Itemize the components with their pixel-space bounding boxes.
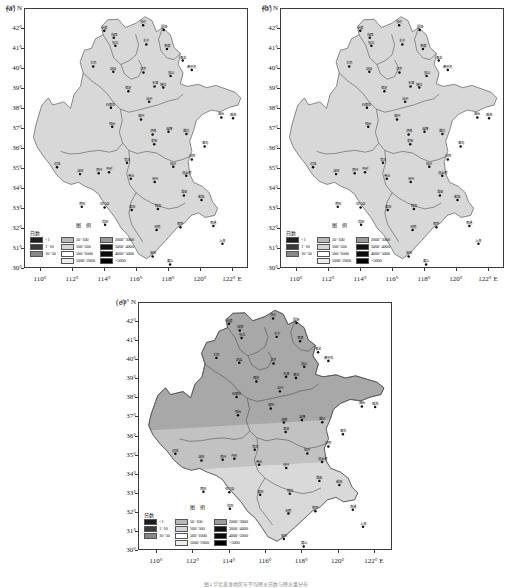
station-label: 保定 <box>381 85 388 90</box>
station-marker <box>383 90 385 92</box>
station-marker <box>398 24 400 26</box>
station-marker <box>447 69 449 71</box>
legend-swatch <box>175 519 188 524</box>
legend-item-days: 10~50 <box>286 251 312 257</box>
station-marker <box>167 130 169 132</box>
station-label: 蚌埠 <box>155 203 162 208</box>
station-label: 连云港 <box>438 170 448 175</box>
station-marker <box>202 490 204 492</box>
station-marker <box>185 133 187 135</box>
legend-item-days: <1 <box>144 519 170 525</box>
station-label: 康保 <box>367 32 374 37</box>
station-label: 石家庄 <box>362 102 372 107</box>
station-label: 信阳 <box>102 219 109 224</box>
station-label: 青龙 <box>315 346 322 351</box>
station-label: 黄山 <box>167 258 173 263</box>
station-label: 济南 <box>281 417 288 422</box>
station-marker <box>317 351 319 353</box>
station-label: 沧州 <box>146 96 152 101</box>
station-label: 南通 <box>466 220 473 225</box>
station-marker <box>441 174 443 176</box>
station-marker <box>279 390 281 392</box>
station-marker <box>418 86 420 88</box>
legend-label: 3000~4000 <box>229 527 248 532</box>
legend-item-amount: 2000~3000 <box>100 237 134 243</box>
station-marker <box>183 194 185 196</box>
station-label: 运城 <box>54 161 61 166</box>
station-label: 保定 <box>125 85 132 90</box>
legend-item-amount: 500~1000 <box>61 251 95 257</box>
panel-a-plot-area: 多伦张北康保化德承德丰宁围场青龙秦皇岛唐山大同蔚县北京天津塘沽保定石家庄沧州邢台… <box>24 8 248 268</box>
station-marker <box>97 172 99 174</box>
station-marker <box>140 118 142 120</box>
station-marker <box>374 406 376 408</box>
legend-label: 1~10 <box>45 245 54 250</box>
station-marker <box>327 360 329 362</box>
x-axis-tick-mark <box>156 550 157 553</box>
legend-swatch <box>30 244 43 249</box>
legend-label: 2000~3000 <box>229 520 248 525</box>
panel-b: (b) 43° N42°41°40°39°38°37°36°35°34°33°3… <box>256 0 512 294</box>
legend-column-amount-low: 50~100100~500500~10001000~2000 <box>175 519 209 546</box>
station-label: 承德 <box>420 43 427 48</box>
station-marker <box>289 493 291 495</box>
legend-swatch <box>100 258 113 263</box>
station-marker <box>81 206 83 208</box>
station-marker <box>386 209 388 211</box>
station-marker <box>253 448 255 450</box>
station-marker <box>174 453 176 455</box>
station-label: 信阳 <box>227 503 234 508</box>
station-marker <box>398 71 400 73</box>
station-marker <box>112 70 114 72</box>
station-label: 盐城 <box>454 194 461 199</box>
x-axis-tick: 112° <box>186 557 199 565</box>
station-label: 阜阳 <box>385 204 392 209</box>
station-marker <box>283 421 285 423</box>
legend-item-days: <1 <box>286 237 312 243</box>
station-marker <box>348 65 350 67</box>
x-axis-tick-mark <box>104 268 105 271</box>
x-axis-tick: 114° <box>222 557 235 565</box>
legend-label: 10~50 <box>45 252 56 257</box>
x-axis-tick: 112° <box>321 275 334 283</box>
x-axis-tick: 110° <box>289 275 302 283</box>
station-marker <box>366 106 368 108</box>
legend-item-amount: 50~100 <box>61 237 95 243</box>
station-marker <box>228 323 230 325</box>
station-label: 运城 <box>172 448 179 453</box>
station-marker <box>318 480 320 482</box>
station-marker <box>221 458 223 460</box>
legend-label: 100~500 <box>190 527 205 532</box>
station-marker <box>361 405 363 407</box>
x-axis-tick: 120° <box>449 275 462 283</box>
station-marker <box>468 225 470 227</box>
station-label: 商丘 <box>256 459 263 464</box>
station-label: 临沂 <box>304 447 311 452</box>
station-label: 威海 <box>372 401 379 406</box>
panel-a-map: 多伦张北康保化德承德丰宁围场青龙秦皇岛唐山大同蔚县北京天津塘沽保定石家庄沧州邢台… <box>25 9 247 267</box>
station-label: 德州 <box>268 402 274 407</box>
legend-item-amount: 500~1000 <box>317 251 351 257</box>
legend-item-amount: 2000~3000 <box>356 237 390 243</box>
station-marker <box>153 181 155 183</box>
station-marker <box>200 459 202 461</box>
station-label: 洛阳 <box>198 454 205 459</box>
station-marker <box>439 194 441 196</box>
legend-label: <1 <box>45 238 50 243</box>
y-axis-top-label: 43° N <box>5 4 22 12</box>
x-axis-tick-mark <box>424 268 425 271</box>
legend-column-amount-high: 2000~30003000~40004000~5000>5000 <box>100 237 134 264</box>
station-marker <box>130 177 132 179</box>
station-label: 上海 <box>219 238 226 243</box>
station-marker <box>255 380 257 382</box>
legend-label: >5000 <box>229 541 240 546</box>
station-label: 南京 <box>312 505 319 510</box>
x-axis-tick: 118° <box>161 275 174 283</box>
panel-c-x-axis: 110°112°114°116°118°120°122° E <box>138 550 392 576</box>
station-label: 潍坊 <box>183 128 190 133</box>
station-marker <box>232 117 234 119</box>
legend-label: 1000~2000 <box>332 259 351 264</box>
station-label: 天津 <box>152 80 159 85</box>
legend-swatch <box>214 540 227 545</box>
station-label: 化德 <box>226 318 233 323</box>
